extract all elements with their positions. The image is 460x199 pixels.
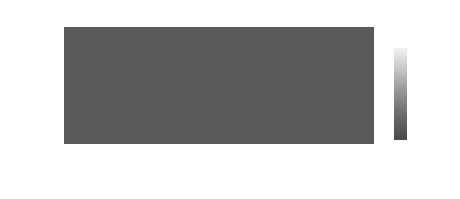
colorbar-gradient [394,48,407,140]
heatmap-plot-area [64,27,374,144]
colorbar-legend [392,27,458,144]
y-axis-tick-2 [0,86,60,115]
heatmap-figure [0,0,460,199]
y-axis-tick-0 [0,27,60,56]
y-axis-labels [0,27,60,144]
y-axis-tick-1 [0,56,60,85]
heatmap-cell-grid [64,27,374,144]
x-axis-labels [64,144,374,199]
y-axis-tick-3 [0,115,60,144]
